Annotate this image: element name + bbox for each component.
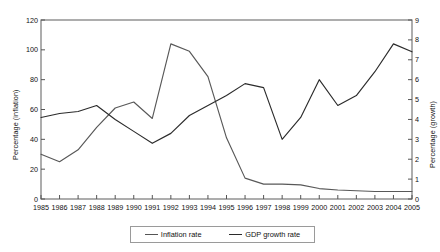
chart-plot-area xyxy=(0,0,440,252)
plot-frame xyxy=(41,20,412,199)
y-tick-label-left: 60 xyxy=(14,105,38,114)
legend-swatch-inflation-rate xyxy=(145,234,158,235)
legend-label-gdp-growth-rate: GDP growth rate xyxy=(245,230,300,239)
y-tick-label-right: 6 xyxy=(415,75,431,84)
series-line-inflation-rate xyxy=(41,44,412,192)
y-tick-label-right: 1 xyxy=(415,175,431,184)
y-tick-label-left: 100 xyxy=(14,45,38,54)
y-tick-label-left: 80 xyxy=(14,75,38,84)
legend-label-inflation-rate: Inflation rate xyxy=(161,230,202,239)
legend-swatch-gdp-growth-rate xyxy=(229,234,242,235)
chart-figure: Percentage (inflation) Percentage (growt… xyxy=(0,0,440,252)
y-tick-label-right: 5 xyxy=(415,95,431,104)
y-tick-label-left: 40 xyxy=(14,135,38,144)
series-line-gdp-growth-rate xyxy=(41,44,412,143)
y-tick-label-right: 7 xyxy=(415,55,431,64)
y-tick-label-right: 9 xyxy=(415,16,431,25)
y-tick-label-left: 20 xyxy=(14,165,38,174)
y-tick-label-right: 8 xyxy=(415,35,431,44)
y-tick-label-left: 120 xyxy=(14,16,38,25)
x-tick-label: 2005 xyxy=(401,203,423,212)
chart-legend: Inflation rate GDP growth rate xyxy=(130,226,315,243)
legend-item-inflation-rate: Inflation rate xyxy=(145,230,202,239)
y-tick-label-right: 4 xyxy=(415,115,431,124)
y-tick-label-right: 2 xyxy=(415,155,431,164)
y-axis-label-left: Percentage (inflation) xyxy=(11,89,20,160)
y-tick-label-right: 3 xyxy=(415,135,431,144)
legend-item-gdp-growth-rate: GDP growth rate xyxy=(229,230,300,239)
